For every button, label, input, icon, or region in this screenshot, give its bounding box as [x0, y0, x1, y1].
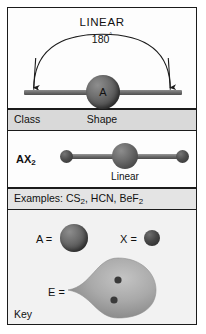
examples-row: Examples: CS2, HCN, BeF2 [8, 189, 196, 209]
example-3-base: BeF [119, 192, 138, 204]
key-entry-x-symbol: X = [120, 233, 137, 245]
bond-angle-label: 180° [8, 32, 196, 45]
central-atom-model [112, 143, 138, 169]
linear-geometry-panel: LINEAR 180° A [8, 8, 196, 108]
bond-right [134, 154, 182, 159]
vsepr-diagram-frame: LINEAR 180° A Class Shape AX2 [7, 7, 197, 325]
class-formula: AX2 [16, 153, 36, 165]
key-central-atom-sphere [60, 224, 88, 252]
example-2-base: HCN [91, 192, 114, 204]
table-row: AX2 Linear [8, 131, 196, 187]
terminal-atom-left [60, 150, 73, 163]
key-panel: A = X = E = Key [8, 210, 196, 325]
key-title: Key [14, 308, 32, 320]
terminal-atom-right [176, 150, 189, 163]
shape-name-label: Linear [56, 171, 194, 182]
bond-angle-value: 180 [92, 33, 110, 45]
lone-pair-lobe-icon [66, 256, 164, 320]
degree-symbol: ° [109, 32, 112, 39]
class-formula-base: AX [16, 153, 31, 165]
example-3-sub: 2 [139, 197, 143, 206]
key-entry-a-symbol: A = [36, 233, 52, 245]
example-1-sub: 2 [81, 197, 85, 206]
key-terminal-atom-sphere [144, 230, 160, 246]
column-header-shape: Shape [8, 113, 196, 125]
example-1-base: CS [66, 192, 81, 204]
central-atom-label: A [86, 75, 120, 109]
table-header-row: Class Shape [8, 110, 196, 130]
bond-left [68, 154, 116, 159]
examples-prefix: Examples: [14, 192, 66, 204]
key-entry-e-symbol: E = [48, 286, 65, 298]
examples-text: Examples: CS2, HCN, BeF2 [14, 192, 143, 204]
class-formula-subscript: 2 [31, 158, 35, 167]
linear-molecule-model [56, 141, 194, 171]
